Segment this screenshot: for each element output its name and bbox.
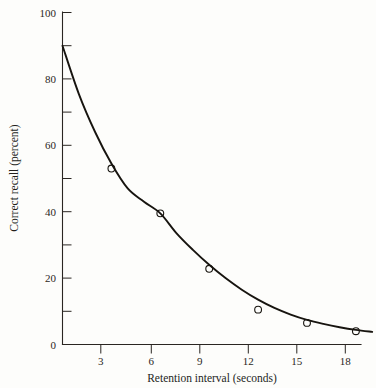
axis-lines — [63, 12, 362, 345]
fitted-forgetting-curve — [63, 46, 373, 332]
x-tick-label-6: 6 — [149, 355, 155, 367]
data-point-18s — [353, 328, 360, 335]
y-tick-label-20: 20 — [45, 272, 57, 284]
data-point-markers — [108, 165, 359, 334]
y-axis-tick-labels: 100 80 60 40 20 0 — [40, 7, 57, 351]
y-axis-title: Correct recall (percent) — [8, 124, 21, 231]
x-tick-label-12: 12 — [243, 355, 254, 367]
x-axis-tick-labels: 3 6 9 12 15 18 — [98, 355, 351, 367]
x-tick-label-3: 3 — [98, 355, 104, 367]
x-axis-title: Retention interval (seconds) — [147, 372, 277, 385]
chart-figure: 100 80 60 40 20 0 3 6 9 12 15 18 — [0, 0, 376, 388]
y-tick-label-60: 60 — [45, 139, 57, 151]
data-point-9s — [206, 265, 213, 272]
forgetting-curve-plot: 100 80 60 40 20 0 3 6 9 12 15 18 — [0, 0, 376, 388]
y-tick-label-0: 0 — [51, 339, 57, 351]
data-point-12s — [255, 306, 262, 313]
y-tick-label-80: 80 — [45, 73, 57, 85]
x-tick-label-9: 9 — [197, 355, 203, 367]
y-tick-label-100: 100 — [40, 7, 57, 19]
x-tick-label-18: 18 — [340, 355, 352, 367]
x-tick-label-15: 15 — [291, 355, 303, 367]
x-axis-ticks — [101, 345, 345, 354]
y-tick-label-40: 40 — [45, 206, 57, 218]
